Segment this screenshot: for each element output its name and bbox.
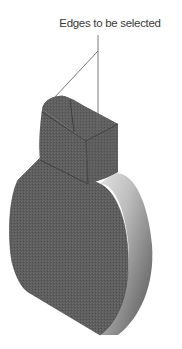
part-illustration [0, 0, 182, 349]
